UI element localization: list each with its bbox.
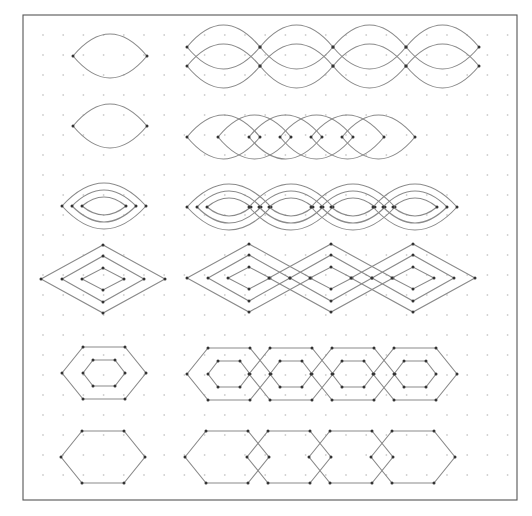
vertex-dot [248, 254, 251, 257]
grid-dot [386, 34, 388, 36]
vertex-dot [435, 347, 438, 350]
grid-dot [285, 174, 287, 176]
grid-dot [163, 434, 165, 436]
grid-dot [345, 374, 347, 376]
grid-dot [406, 334, 408, 336]
grid-dot [224, 334, 226, 336]
grid-dot [365, 294, 367, 296]
grid-dot [466, 334, 468, 336]
grid-dot [62, 54, 64, 56]
vertex-dot [382, 206, 385, 209]
grid-dot [487, 314, 489, 316]
grid-dot [163, 114, 165, 116]
grid-dot [163, 374, 165, 376]
grid-dot [325, 394, 327, 396]
vertex-dot [61, 372, 64, 375]
grid-dot [426, 414, 428, 416]
grid-dot [184, 354, 186, 356]
grid-dot [406, 354, 408, 356]
grid-dot [244, 174, 246, 176]
grid-dot [487, 194, 489, 196]
grid-dot [204, 294, 206, 296]
grid-dot [305, 214, 307, 216]
grid-dot [285, 234, 287, 236]
grid-dot [103, 474, 105, 476]
grid-dot [507, 394, 509, 396]
grid-dot [446, 374, 448, 376]
vertex-dot [309, 277, 312, 280]
grid-dot [62, 334, 64, 336]
grid-dot [163, 174, 165, 176]
grid-dot [123, 274, 125, 276]
grid-dot [365, 434, 367, 436]
grid-dot [244, 114, 246, 116]
vertex-dot [350, 277, 353, 280]
grid-dot [103, 74, 105, 76]
grid-dot [204, 254, 206, 256]
vertex-dot [207, 373, 210, 376]
grid-dot [386, 254, 388, 256]
grid-dot [345, 354, 347, 356]
vertex-dot [60, 456, 63, 459]
grid-dot [42, 34, 44, 36]
vertex-dot [259, 65, 262, 68]
vertex-dot [331, 373, 334, 376]
grid-dot [507, 234, 509, 236]
grid-dot [163, 94, 165, 96]
grid-dot [285, 294, 287, 296]
grid-dot [83, 334, 85, 336]
grid-dot [285, 434, 287, 436]
vertex-dot [309, 430, 312, 433]
grid-dot [184, 214, 186, 216]
grid-dot [163, 294, 165, 296]
grid-dot [123, 54, 125, 56]
grid-dot [224, 134, 226, 136]
grid-dot [345, 334, 347, 336]
grid-dot [62, 94, 64, 96]
vertex-dot [269, 399, 272, 402]
figure-row-lens [72, 104, 417, 159]
grid-dot [426, 294, 428, 296]
grid-dot [42, 134, 44, 136]
grid-dot [42, 194, 44, 196]
grid-dot [305, 34, 307, 36]
grid-dot [204, 474, 206, 476]
vertex-dot [330, 456, 333, 459]
vertex-dot [184, 456, 187, 459]
grid-dot [487, 394, 489, 396]
grid-dot [184, 54, 186, 56]
grid-dot [426, 214, 428, 216]
vertex-dot [352, 136, 355, 139]
grid-dot [345, 194, 347, 196]
grid-dot [466, 94, 468, 96]
grid-dot [446, 414, 448, 416]
grid-dot [62, 154, 64, 156]
grid-dot [406, 374, 408, 376]
vertex-dot [478, 65, 481, 68]
vertex-dot [403, 386, 406, 389]
grid-dot [42, 94, 44, 96]
vertex-dot [102, 301, 105, 304]
grid-dot [163, 54, 165, 56]
vertex-dot [81, 430, 84, 433]
grid-dot [507, 134, 509, 136]
vertex-dot [433, 277, 436, 280]
vertex-dot [267, 430, 270, 433]
grid-dot [386, 354, 388, 356]
grid-dot [62, 174, 64, 176]
vertex-dot [217, 386, 220, 389]
vertex-dot [329, 482, 332, 485]
grid-dot [507, 454, 509, 456]
grid-dot [224, 454, 226, 456]
grid-dot [487, 54, 489, 56]
grid-dot [285, 314, 287, 316]
grid-dot [305, 414, 307, 416]
grid-dot [305, 334, 307, 336]
grid-dot [42, 54, 44, 56]
grid-dot [62, 314, 64, 316]
vertex-dot [248, 311, 251, 314]
hexagon-shape [83, 360, 125, 386]
hexagon-shape [332, 361, 374, 387]
hexagon-shape [208, 361, 250, 387]
grid-dot [386, 334, 388, 336]
